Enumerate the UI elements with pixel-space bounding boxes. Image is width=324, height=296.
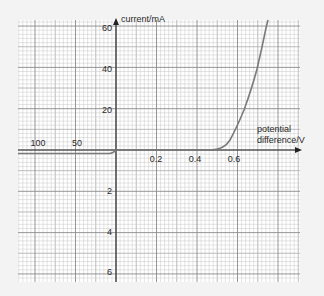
x-axis-title-line1: potential bbox=[257, 124, 291, 134]
y-axis-title: current/mA bbox=[121, 14, 165, 24]
y-tick-neg-6: 6 bbox=[107, 267, 112, 277]
x-axis-title-line2: difference/V bbox=[257, 135, 305, 145]
y-tick-60: 60 bbox=[102, 23, 112, 33]
x-tick-0.4: 0.4 bbox=[189, 154, 202, 164]
y-tick-20: 20 bbox=[102, 105, 112, 115]
x-tick-neg-50: 50 bbox=[72, 138, 82, 148]
y-tick-neg-2: 2 bbox=[107, 186, 112, 196]
iv-characteristic-chart: current/mA 60 40 20 2 4 6 0.2 0.4 0.6 10… bbox=[0, 0, 324, 296]
y-tick-neg-4: 4 bbox=[107, 227, 112, 237]
x-tick-neg-100: 100 bbox=[30, 138, 45, 148]
x-tick-0.2: 0.2 bbox=[150, 154, 163, 164]
y-tick-40: 40 bbox=[102, 64, 112, 74]
x-tick-0.6: 0.6 bbox=[228, 154, 241, 164]
